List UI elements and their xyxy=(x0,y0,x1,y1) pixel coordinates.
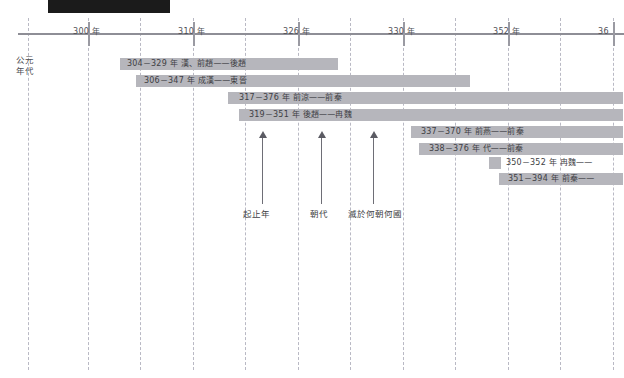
annotation-arrow-head-icon xyxy=(370,131,378,138)
timeline-chart: 300 年310 年326 年330 年352 年36 公元 年代 304－32… xyxy=(0,0,624,378)
gridline xyxy=(245,18,246,370)
annotation-arrow-head-icon xyxy=(318,131,326,138)
gridline xyxy=(613,18,614,370)
dynasty-bar-label: 337－370 年 前燕——前秦 xyxy=(421,126,524,138)
gridline xyxy=(560,18,561,370)
dynasty-bar-label: 338－376 年 代——前秦 xyxy=(429,143,524,155)
axis-tick-label: 326 年 xyxy=(283,27,310,37)
dynasty-bar-label: 319－351 年 後趙——冉魏 xyxy=(249,109,352,121)
gridline xyxy=(88,18,89,370)
gridline xyxy=(298,18,299,370)
gridline xyxy=(508,18,509,370)
annotation-label: 朝代 xyxy=(310,209,328,220)
dynasty-bar[interactable] xyxy=(489,157,501,169)
gridline xyxy=(403,18,404,370)
annotation-label: 起止年 xyxy=(243,209,270,220)
annotation-label: 滅於何朝何國 xyxy=(348,209,402,220)
axis-tick-label: 300 年 xyxy=(73,27,100,37)
gridline xyxy=(193,18,194,370)
dynasty-bar-label: 317－376 年 前涼——前秦 xyxy=(239,92,342,104)
axis-tick-label: 36 xyxy=(598,27,609,37)
axis-tick xyxy=(613,22,615,46)
annotation-arrow-shaft xyxy=(321,138,322,204)
annotation-arrow-shaft xyxy=(262,138,263,204)
dynasty-bar-label: 304－329 年 漢、前趙——後趙 xyxy=(127,58,246,70)
gridline xyxy=(140,18,141,370)
annotation-arrow-head-icon xyxy=(259,131,267,138)
axis-tick-label: 330 年 xyxy=(388,27,415,37)
dynasty-bar-label: 306－347 年 成漢——東晉 xyxy=(144,75,247,87)
dynasty-bar-label: 350－352 年 冉魏—— xyxy=(506,157,592,169)
axis-tick-label: 310 年 xyxy=(178,27,205,37)
gridline xyxy=(350,18,351,370)
dynasty-bar-label: 351－394 年 前秦—— xyxy=(508,173,594,185)
gridline xyxy=(455,18,456,370)
axis-tick-label: 352 年 xyxy=(493,27,520,37)
annotation-arrow-shaft xyxy=(373,138,374,204)
header-redaction-block xyxy=(48,0,170,13)
timeline-axis-line xyxy=(18,33,624,35)
axis-caption: 公元 年代 xyxy=(16,55,34,77)
